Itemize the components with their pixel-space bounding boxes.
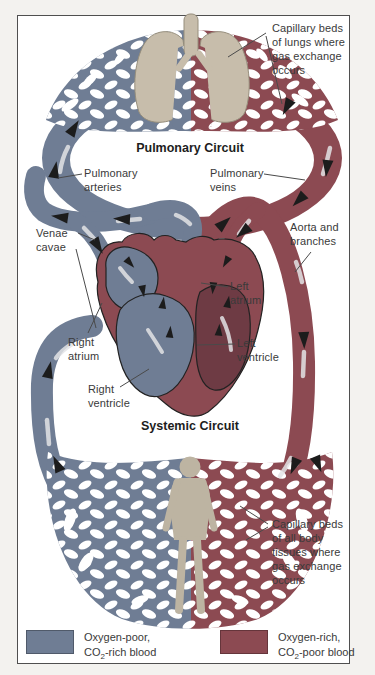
legend-swatch-oxygen-poor [26, 630, 74, 654]
label-capillary-beds-lungs: Capillary beds of lungs where gas exchan… [272, 21, 358, 77]
label-aorta-branches: Aorta and branches [290, 220, 339, 248]
legend-text-oxygen-rich: Oxygen-rich, CO2-poor blood [278, 630, 355, 664]
label-right-ventricle: Right ventricle [88, 382, 130, 410]
legend-swatch-oxygen-rich [220, 630, 268, 654]
label-right-atrium: Right atrium [68, 335, 99, 363]
label-pulmonary-veins: Pulmonary veins [210, 166, 263, 194]
label-capillary-beds-body: Capillary beds of all body tissues where… [272, 517, 358, 587]
legend-text-oxygen-poor: Oxygen-poor, CO2-rich blood [84, 630, 156, 664]
label-left-ventricle: Left ventricle [237, 336, 279, 364]
label-systemic-circuit: Systemic Circuit [110, 419, 270, 433]
label-left-atrium: Left atrium [230, 279, 261, 307]
label-pulmonary-circuit: Pulmonary Circuit [110, 141, 270, 155]
legend-oxygen-poor: Oxygen-poor, CO2-rich blood [26, 630, 156, 664]
legend-oxygen-rich: Oxygen-rich, CO2-poor blood [220, 630, 355, 664]
label-pulmonary-arteries: Pulmonary arteries [84, 166, 137, 194]
label-venae-cavae: Venae cavae [36, 226, 68, 254]
figure-circulatory-system: Capillary beds of lungs where gas exchan… [0, 0, 375, 675]
